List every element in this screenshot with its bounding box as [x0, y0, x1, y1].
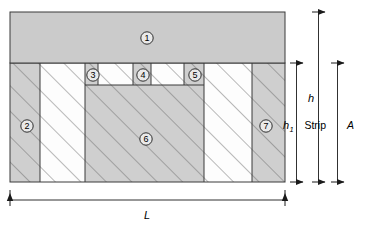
dimension-strip-a: Strip A	[304, 63, 354, 182]
region-label-4-text: 4	[140, 70, 145, 80]
region-label-2: 2	[21, 120, 33, 132]
region-white-column-d	[204, 63, 252, 182]
h-label: h	[308, 92, 314, 104]
region-label-4: 4	[137, 69, 149, 81]
dimension-h1: h 1	[283, 63, 303, 182]
region-label-5-text: 5	[192, 70, 197, 80]
region-label-6: 6	[140, 133, 152, 145]
technical-diagram: 1 2 3 4 5 6 7 h 1	[0, 0, 365, 231]
dimension-h: h	[308, 12, 325, 182]
region-label-6-text: 6	[143, 134, 148, 144]
region-label-2-text: 2	[24, 121, 29, 131]
region-white-cell-b	[98, 63, 133, 85]
region-white-cell-c	[151, 63, 184, 85]
region-white-column-a	[40, 63, 85, 182]
region-label-3-text: 3	[90, 70, 95, 80]
region-label-1-text: 1	[144, 33, 149, 43]
L-label: L	[144, 209, 150, 221]
dimension-L: L	[10, 190, 285, 221]
region-label-5: 5	[189, 69, 201, 81]
region-label-1: 1	[141, 32, 153, 44]
hatched-body	[10, 63, 285, 182]
h1-subscript: 1	[290, 125, 294, 134]
diagram-svg: 1 2 3 4 5 6 7 h 1	[0, 0, 365, 231]
strip-a-label: Strip	[304, 119, 326, 131]
strip-a-letter: A	[346, 119, 354, 131]
region-label-7: 7	[260, 120, 272, 132]
region-label-3: 3	[87, 69, 99, 81]
region-label-7-text: 7	[263, 121, 268, 131]
h1-label: h	[283, 119, 289, 131]
